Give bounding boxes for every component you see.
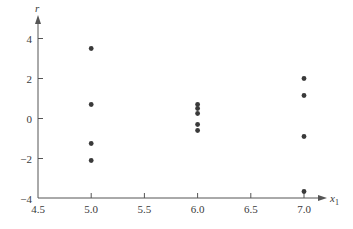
y-tick-label: 0	[27, 113, 33, 125]
axes	[35, 15, 327, 201]
y-axis-arrow-icon	[35, 15, 41, 24]
data-point	[89, 158, 94, 163]
y-axis-ticks: −4−2024	[20, 33, 43, 205]
residual-scatter-plot: −4−2024 4.55.05.56.06.57.0 r x1	[0, 0, 353, 229]
data-point	[89, 141, 94, 146]
data-point	[195, 128, 200, 133]
x-axis-ticks: 4.55.05.56.06.57.0	[31, 193, 311, 215]
y-tick-label: −2	[20, 153, 32, 165]
data-point	[195, 122, 200, 127]
x-axis-label: x1	[329, 192, 339, 207]
y-tick-label: 2	[27, 73, 33, 85]
data-point	[302, 189, 307, 194]
data-point	[302, 93, 307, 98]
x-tick-label: 5.5	[138, 203, 152, 215]
data-point	[195, 111, 200, 116]
x-tick-label: 5.0	[84, 203, 98, 215]
data-point	[195, 106, 200, 111]
x-tick-label: 4.5	[31, 203, 45, 215]
x-tick-label: 6.5	[244, 203, 258, 215]
data-point	[89, 102, 94, 107]
data-point	[89, 46, 94, 51]
x-tick-label: 6.0	[191, 203, 205, 215]
data-point	[302, 76, 307, 81]
data-points	[89, 46, 307, 194]
x-axis-arrow-icon	[318, 195, 327, 201]
y-tick-label: 4	[27, 33, 33, 45]
y-axis-label: r	[35, 2, 40, 14]
x-tick-label: 7.0	[297, 203, 311, 215]
data-point	[302, 134, 307, 139]
